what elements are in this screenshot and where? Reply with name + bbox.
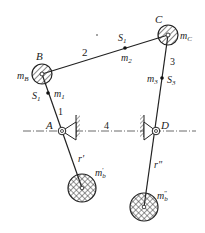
label-m-c: mC [180, 30, 192, 43]
com-dot-link1 [46, 91, 50, 95]
label-link-1: 1 [58, 106, 63, 117]
counterweight-left-center [80, 186, 84, 190]
com-dot-link3 [160, 76, 164, 80]
joint-b-pin [40, 72, 44, 76]
counterweight-right-center [142, 205, 146, 209]
label-s3: S3 [167, 74, 176, 87]
label-m3: m3 [147, 73, 158, 86]
com-dot-link2 [123, 46, 127, 50]
label-d: D [160, 119, 169, 131]
label-s1-link1: S1 [32, 90, 41, 103]
label-m1: m1 [54, 88, 65, 101]
linkage-diagram: B mB C mC S1 m1 1 2 S1 m2 3 m3 S3 A 4 D … [0, 0, 205, 233]
label-mb-prime: mb' [95, 166, 106, 180]
label-c: C [155, 13, 163, 25]
pivot-d-pin [155, 130, 158, 133]
stray-mark [96, 34, 98, 36]
diagram-canvas: B mB C mC S1 m1 1 2 S1 m2 3 m3 S3 A 4 D … [0, 0, 205, 233]
label-r-dprime: r" [154, 159, 163, 170]
pivot-a-pin [61, 130, 64, 133]
joint-c-pin [166, 33, 170, 37]
label-m-b: mB [17, 70, 29, 83]
label-link-2: 2 [82, 46, 88, 58]
label-r-prime: r' [78, 153, 85, 164]
label-a: A [45, 119, 53, 131]
ground-wall-d [140, 115, 144, 137]
label-m2: m2 [121, 52, 132, 65]
label-b: B [36, 50, 43, 62]
label-s1-link2: S1 [118, 32, 127, 45]
label-link-3: 3 [170, 56, 175, 67]
link-2 [42, 35, 168, 74]
label-mb-dprime: mb" [157, 189, 168, 203]
label-frame-4: 4 [104, 120, 109, 131]
ground-wall-a [76, 115, 80, 137]
